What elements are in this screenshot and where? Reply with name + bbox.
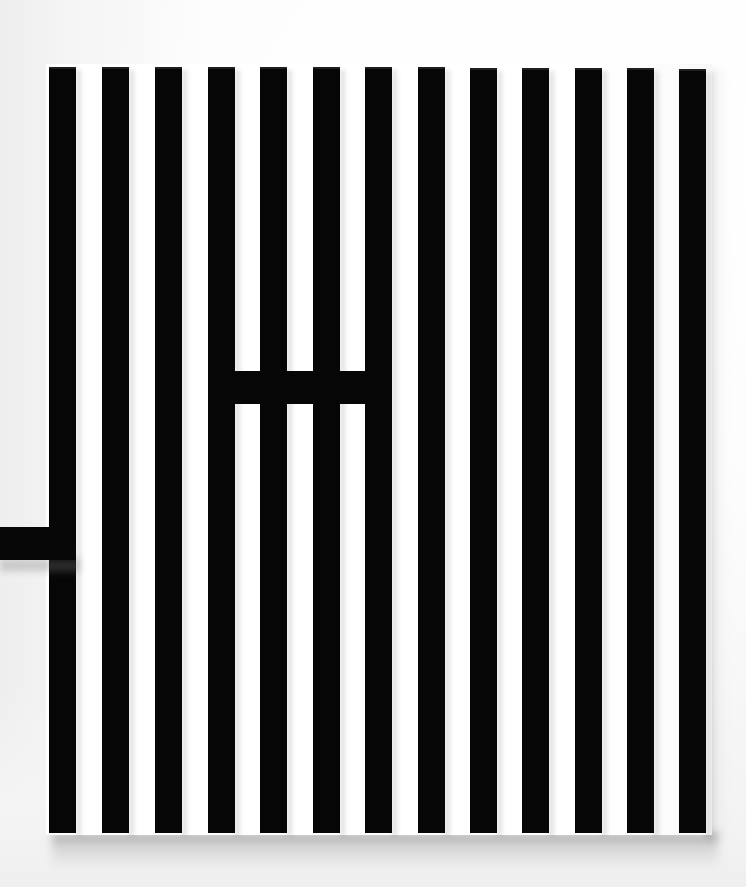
stripe-1-shadow — [76, 70, 81, 836]
stripe-11-shadow — [602, 71, 607, 836]
stripe-2-shadow — [129, 70, 134, 836]
horizontal-crossbar — [208, 371, 384, 404]
stripe-11 — [575, 68, 602, 833]
stripe-9 — [470, 68, 497, 833]
stripe-9-shadow — [497, 71, 502, 836]
stripe-10 — [522, 68, 549, 833]
artwork-canvas: Untitled (Vertical Black Bars Relief) — [0, 0, 746, 887]
stripe-3-shadow — [182, 70, 187, 836]
stripe-6 — [313, 67, 340, 833]
stripe-12-shadow — [654, 71, 659, 836]
stripe-7 — [365, 67, 392, 833]
stripe-6-shadow — [340, 70, 345, 836]
stripe-10-shadow — [549, 71, 554, 836]
stripe-5 — [260, 67, 287, 833]
panel-shadow-bottom — [52, 833, 718, 867]
left-protruding-bar — [0, 527, 76, 560]
stripe-4 — [208, 67, 235, 833]
stripe-2 — [102, 67, 129, 833]
stripe-12 — [627, 68, 654, 833]
stripe-8 — [418, 67, 445, 833]
stripe-3 — [155, 67, 182, 833]
stripe-8-shadow — [445, 70, 450, 836]
stripe-5-shadow — [287, 70, 292, 836]
stripe-13 — [679, 69, 706, 833]
stripe-4-shadow — [235, 70, 240, 836]
stripe-13-shadow — [706, 72, 711, 836]
stripe-1 — [49, 67, 76, 833]
stripe-7-shadow — [392, 70, 397, 836]
